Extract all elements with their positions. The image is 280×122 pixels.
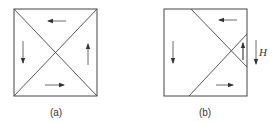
caption-b: (b) bbox=[199, 107, 211, 118]
square-b bbox=[164, 9, 247, 96]
panel-a: (a) bbox=[14, 9, 97, 118]
field-label: H bbox=[258, 46, 268, 58]
domain-wall bbox=[189, 34, 247, 96]
panel-b: H (b) bbox=[164, 9, 268, 118]
domain-diagram: (a) H (b) bbox=[0, 0, 280, 122]
caption-a: (a) bbox=[50, 107, 62, 118]
domain-wall bbox=[191, 9, 247, 67]
